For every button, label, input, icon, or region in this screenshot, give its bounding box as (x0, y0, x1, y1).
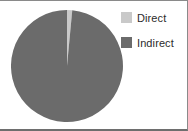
legend-item-indirect[interactable]: Indirect (121, 36, 185, 49)
pie-plot-area (0, 1, 130, 130)
legend-label-direct: Direct (137, 12, 166, 24)
chart-legend: Direct Indirect (121, 11, 185, 49)
legend-item-direct[interactable]: Direct (121, 11, 185, 24)
pie-chart-graphic (11, 9, 123, 123)
legend-label-indirect: Indirect (137, 37, 174, 49)
pie-chart-figure: Direct Indirect (0, 0, 188, 131)
legend-swatch-direct (121, 12, 132, 23)
pie-slices (11, 10, 123, 122)
legend-swatch-indirect (121, 37, 132, 48)
pie-slice-indirect[interactable] (11, 10, 123, 122)
